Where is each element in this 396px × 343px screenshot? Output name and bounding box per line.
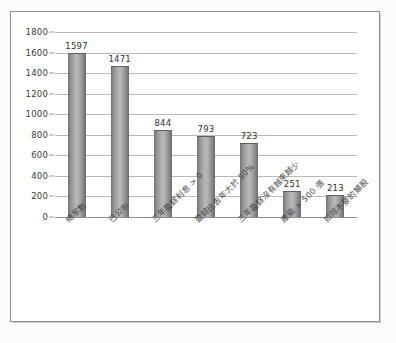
gridline <box>55 94 357 95</box>
y-axis-tick-label: 1200 <box>26 89 48 99</box>
y-tick-mark <box>49 114 54 115</box>
gridline <box>55 73 357 74</box>
bar-value-label: 1597 <box>65 41 87 51</box>
chart-page: 0200400600800100012001400160018001597147… <box>0 0 396 343</box>
bar-value-label: 213 <box>327 183 344 193</box>
y-tick-mark <box>49 196 54 197</box>
y-tick-mark <box>49 52 54 53</box>
y-axis-tick-label: 800 <box>31 130 48 140</box>
y-tick-mark <box>49 175 54 176</box>
bar-value-label: 793 <box>198 124 215 134</box>
y-axis-tick-label: 1400 <box>26 68 48 78</box>
bar-column[interactable]: 1471 <box>111 66 129 217</box>
y-axis-tick-label: 0 <box>42 212 48 222</box>
gridline <box>55 114 357 115</box>
y-axis-tick-label: 400 <box>31 171 48 181</box>
y-tick-mark <box>49 217 54 218</box>
y-tick-mark <box>49 134 54 135</box>
bar-value-label: 844 <box>154 118 171 128</box>
y-axis-tick-label: 1000 <box>26 109 48 119</box>
bar-value-label: 723 <box>241 131 258 141</box>
y-axis-tick-label: 200 <box>31 191 48 201</box>
y-tick-mark <box>49 32 54 33</box>
bar-column[interactable]: 1597 <box>68 53 86 217</box>
gridline <box>55 53 357 54</box>
y-axis-tick-label: 1800 <box>26 27 48 37</box>
chart-frame: 0200400600800100012001400160018001597147… <box>10 11 380 322</box>
category-axis-labels: 總家數已公布三年盈餘利息 > 0盈餘比去年大於 50%三年盈餘沒有越來越少產能 … <box>55 217 357 323</box>
y-axis-tick-label: 600 <box>31 150 48 160</box>
bar-value-label: 1471 <box>108 54 130 64</box>
y-tick-mark <box>49 93 54 94</box>
bar[interactable] <box>68 53 86 217</box>
y-tick-mark <box>49 73 54 74</box>
gridline <box>55 32 357 33</box>
y-axis-tick-label: 1600 <box>26 48 48 58</box>
y-tick-mark <box>49 155 54 156</box>
bar[interactable] <box>111 66 129 217</box>
